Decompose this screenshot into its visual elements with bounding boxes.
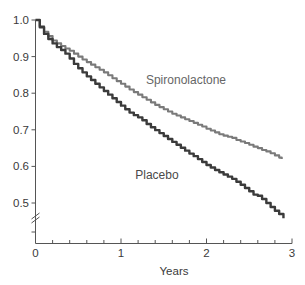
chart-canvas: 0.50.60.70.80.91.0 0123 Spironolactone P… [0,0,305,285]
x-axis-group: 0123 [32,239,295,260]
y-tick-label: 0.5 [13,197,29,209]
x-tick-label: 0 [32,247,38,259]
x-minor-tick-marks [53,240,275,244]
y-tick-label: 0.6 [13,160,29,172]
y-tick-label: 0.7 [13,124,29,136]
survival-chart: 0.50.60.70.80.91.0 0123 Spironolactone P… [0,0,305,285]
x-tick-label: 2 [203,247,209,259]
y-tick-label: 1.0 [13,14,29,26]
series-label-placebo: Placebo [135,168,179,182]
y-tick-labels: 0.50.60.70.80.91.0 [13,14,29,209]
y-tick-marks [32,20,36,232]
series-annotations: Spironolactone Placebo [135,73,226,182]
series-label-spironolactone: Spironolactone [146,73,226,87]
x-tick-labels: 0123 [32,247,295,259]
x-axis-title: Years [160,265,189,277]
y-tick-label: 0.8 [13,87,29,99]
x-tick-marks [36,239,293,244]
x-tick-label: 3 [289,247,295,259]
curve-spironolactone [36,20,282,159]
x-tick-label: 1 [118,247,124,259]
series-curves [36,20,284,218]
y-tick-label: 0.9 [13,51,29,63]
y-axis-group: 0.50.60.70.80.91.0 [13,14,40,243]
